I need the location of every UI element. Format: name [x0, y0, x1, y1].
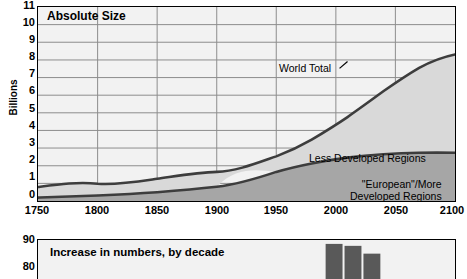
more-developed-regions-label: "European"/MoreDeveloped Regions: [350, 179, 442, 202]
y-axis-tick-labels: 11 10 9 8 7 6 5 4 3 2 1 0: [8, 0, 35, 202]
bottom-y-tick-80: 80: [13, 261, 35, 272]
y-tick-8: 8: [13, 51, 35, 62]
x-tick-2100: 2100: [440, 204, 464, 216]
y-tick-7: 7: [13, 68, 35, 79]
x-tick-1750: 1750: [25, 204, 49, 216]
x-tick-1800: 1800: [85, 204, 109, 216]
y-tick-0: 0: [13, 189, 35, 200]
more-developed-label-line2: Developed Regions: [350, 191, 442, 203]
bottom-plot-area: [37, 239, 456, 279]
x-tick-1950: 1950: [264, 204, 288, 216]
x-tick-1900: 1900: [205, 204, 229, 216]
bar-1990s: [345, 246, 362, 279]
y-tick-10: 10: [13, 17, 35, 28]
more-developed-label-line1: "European"/More: [350, 179, 442, 191]
x-axis-tick-labels: 1750 1800 1850 1900 1950 2000 2050 2100: [0, 204, 467, 220]
y-tick-5: 5: [13, 103, 35, 114]
plot-area: [37, 6, 456, 202]
y-tick-9: 9: [13, 34, 35, 45]
bar-2000s: [363, 254, 380, 279]
absolute-size-chart: Billions 11 10 9 8 7 6 5 4 3 2 1 0: [0, 0, 467, 222]
y-tick-3: 3: [13, 137, 35, 148]
chart-title: Absolute Size: [47, 9, 126, 23]
less-developed-regions-label: Less Developed Regions: [309, 152, 426, 164]
x-tick-1850: 1850: [145, 204, 169, 216]
bottom-chart-title: Increase in numbers, by decade: [50, 246, 225, 258]
bottom-y-tick-90: 90: [13, 234, 35, 245]
increase-by-decade-chart: 90 80 Increase in numbers, by decade: [0, 234, 467, 273]
bottom-y-axis-tick-labels: 90 80: [8, 234, 35, 273]
world-total-pointer: [340, 61, 348, 68]
plot-svg: [38, 7, 455, 201]
x-tick-2000: 2000: [324, 204, 348, 216]
y-tick-1: 1: [13, 171, 35, 182]
bar-1980s: [326, 244, 343, 279]
world-total-label: World Total: [279, 62, 331, 74]
y-tick-6: 6: [13, 85, 35, 96]
y-tick-11: 11: [13, 0, 35, 11]
y-tick-4: 4: [13, 120, 35, 131]
y-tick-2: 2: [13, 154, 35, 165]
x-tick-2050: 2050: [384, 204, 408, 216]
